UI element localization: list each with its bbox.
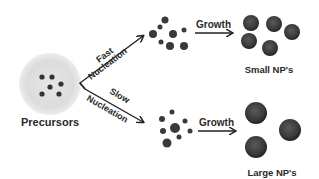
slow-label: Slow (108, 86, 132, 106)
large-nps-label: Large NP's (247, 167, 296, 178)
nucleus (169, 30, 177, 38)
fast-nuclei-cluster (149, 17, 188, 51)
nucleus (160, 128, 166, 134)
precursor-dot (56, 91, 61, 96)
nucleus (177, 135, 182, 140)
growth-label-slow: Growth (199, 117, 234, 128)
large-nanoparticle (279, 119, 301, 141)
nucleus (159, 116, 165, 122)
nucleus (170, 110, 175, 115)
nucleus (149, 30, 157, 38)
precursor-dot (47, 84, 52, 89)
precursor-dot (39, 91, 44, 96)
precursor-dot (39, 74, 44, 79)
nucleus (183, 119, 188, 124)
large-nanoparticle (245, 136, 267, 158)
nucleus (159, 40, 164, 45)
nucleation-diagram: Precursors Fast Nucleation Slow Nucleati… (0, 0, 319, 179)
nucleus (188, 129, 193, 134)
growth-arrow-fast: Growth (195, 19, 232, 33)
nucleus (166, 42, 174, 50)
large-nanoparticles (245, 102, 301, 158)
growth-label-fast: Growth (196, 19, 231, 30)
fast-nucleation-arrow: Fast Nucleation (80, 36, 143, 89)
large-nanoparticle (245, 102, 267, 124)
small-nanoparticle (241, 33, 257, 49)
precursor-source: Precursors (19, 53, 81, 128)
small-nanoparticle (266, 16, 282, 32)
precursor-label: Precursors (21, 116, 79, 128)
precursor-dot (58, 81, 63, 86)
nucleus (180, 42, 188, 50)
small-nanoparticle (262, 40, 278, 56)
nucleus (158, 25, 163, 30)
nucleus (170, 123, 180, 133)
nucleus (182, 28, 187, 33)
slow-nuclei-cluster (159, 110, 193, 148)
small-nps-label: Small NP's (245, 64, 294, 75)
small-nanoparticle (243, 15, 259, 31)
precursor-halo (19, 53, 81, 115)
small-nanoparticles (241, 15, 300, 56)
nucleus (163, 139, 172, 148)
slow-nucleation-arrow: Slow Nucleation (80, 83, 143, 125)
precursor-dot (49, 74, 54, 79)
small-nanoparticle (284, 24, 300, 40)
nucleus (162, 17, 169, 24)
growth-arrow-slow: Growth (198, 117, 235, 131)
